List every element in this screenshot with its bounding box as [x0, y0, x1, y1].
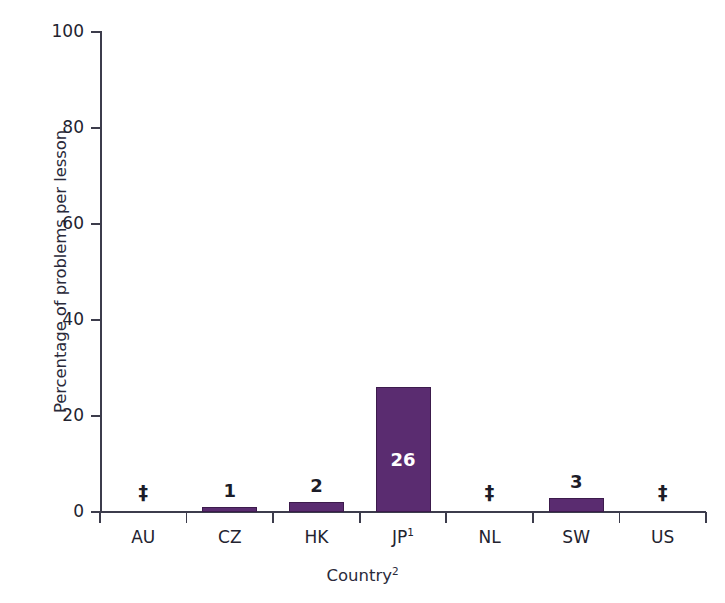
category-name: US — [651, 527, 674, 547]
x-axis-tick — [532, 512, 534, 523]
x-axis-category-label-au: AU — [131, 527, 155, 547]
x-axis-title-text: Country — [326, 566, 392, 585]
bar-value-label-sw: 3 — [570, 471, 583, 492]
x-axis-tick — [186, 512, 188, 523]
category-name: HK — [304, 527, 328, 547]
x-axis-category-label-sw: SW — [562, 527, 590, 547]
y-axis-line — [100, 31, 102, 513]
bar-value-label-hk: 2 — [310, 475, 323, 496]
category-name: JP — [392, 527, 407, 547]
x-axis-tick — [99, 512, 101, 523]
x-axis-category-label-hk: HK — [304, 527, 328, 547]
y-axis-tick-label: 60 — [24, 213, 84, 233]
category-name: AU — [131, 527, 155, 547]
x-axis-tick — [359, 512, 361, 523]
category-name: NL — [478, 527, 500, 547]
y-axis-tick — [91, 31, 100, 33]
bar-value-label-cz: 1 — [224, 480, 237, 501]
x-axis-category-label-us: US — [651, 527, 674, 547]
suppressed-data-marker-au: ‡ — [139, 481, 149, 503]
y-axis-tick — [91, 319, 100, 321]
bar-sw — [549, 498, 604, 512]
category-name: SW — [562, 527, 590, 547]
y-axis-tick — [91, 127, 100, 129]
x-axis-tick — [619, 512, 621, 523]
bar-cz — [202, 507, 257, 512]
bar-hk — [289, 502, 344, 512]
y-axis-tick-label: 0 — [24, 501, 84, 521]
y-axis-tick — [91, 415, 100, 417]
bar-chart: Percentage of problems per lesson 020406… — [0, 0, 725, 603]
x-axis-title-superscript: 2 — [392, 565, 399, 577]
y-axis-tick-label: 40 — [24, 309, 84, 329]
y-axis-tick-label: 80 — [24, 117, 84, 137]
suppressed-data-marker-us: ‡ — [658, 481, 668, 503]
y-axis-tick — [91, 223, 100, 225]
x-axis-category-label-nl: NL — [478, 527, 500, 547]
y-axis-tick-label: 20 — [24, 405, 84, 425]
x-axis-tick — [705, 512, 707, 523]
x-axis-title: Country2 — [0, 566, 725, 585]
x-axis-tick — [272, 512, 274, 523]
x-axis-tick — [445, 512, 447, 523]
x-axis-category-label-jp: JP1 — [392, 527, 414, 547]
suppressed-data-marker-nl: ‡ — [485, 481, 495, 503]
category-superscript: 1 — [407, 526, 414, 538]
y-axis-title: Percentage of problems per lesson — [51, 42, 70, 502]
y-axis-tick-label: 100 — [24, 21, 84, 41]
x-axis-category-label-cz: CZ — [218, 527, 242, 547]
bar-value-label-jp: 26 — [390, 449, 415, 470]
category-name: CZ — [218, 527, 242, 547]
